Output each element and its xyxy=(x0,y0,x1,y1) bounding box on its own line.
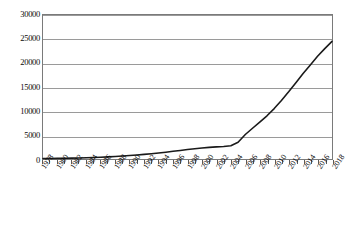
y-axis-labels: 050001000015000200002500030000 xyxy=(0,0,348,228)
y-tick-label: 0 xyxy=(0,156,40,165)
y-tick-label: 20000 xyxy=(0,58,40,67)
line-chart: 050001000015000200002500030000 197819801… xyxy=(0,0,348,228)
y-tick-label: 10000 xyxy=(0,107,40,116)
y-tick-label: 15000 xyxy=(0,83,40,92)
y-tick-label: 5000 xyxy=(0,131,40,140)
y-tick-label: 25000 xyxy=(0,34,40,43)
y-tick-label: 30000 xyxy=(0,10,40,19)
